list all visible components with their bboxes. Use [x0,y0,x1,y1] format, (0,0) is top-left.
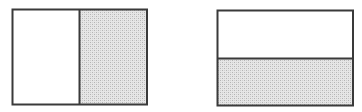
left-rectangle-empty-half [13,10,80,105]
right-rectangle [218,11,354,106]
fraction-diagram [0,0,362,112]
right-rectangle-empty-half [218,11,354,59]
left-rectangle [13,10,148,105]
right-rectangle-shaded-half [218,59,354,106]
left-rectangle-shaded-half [80,10,148,105]
